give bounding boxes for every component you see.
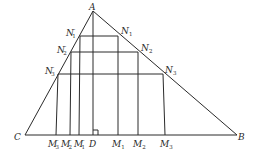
geometry-diagram: A C B D N1 N2 N3 N′1 N′2 N′3 M′3 M′2 M′1… [0,0,253,159]
side-ca [25,11,93,135]
label-m2-prime: M′2 [60,139,72,150]
label-m1: M1 [111,139,125,150]
segment-n3-m3 [163,74,165,135]
label-c: C [14,132,21,142]
segment-n2p-m2p [70,52,71,135]
label-n2: N2 [140,43,152,54]
segment-n3p-m3p [56,74,58,135]
label-m1-prime: M′1 [73,139,85,150]
label-n1: N1 [120,26,132,37]
label-n1-prime: N′1 [65,28,76,39]
label-d: D [88,139,96,149]
label-m3-prime: M′3 [47,139,59,150]
label-m2: M2 [132,139,146,150]
label-n2-prime: N′2 [56,45,67,56]
rectangle-1 [79,36,118,135]
label-m3: M3 [159,139,173,150]
label-n3-prime: N′3 [44,66,55,77]
label-n3: N3 [164,65,177,76]
label-b: B [237,132,245,142]
segment-n1p-m1p [79,36,80,135]
label-a: A [88,2,96,12]
rectangle-3 [56,74,165,135]
right-angle-icon [93,130,98,135]
